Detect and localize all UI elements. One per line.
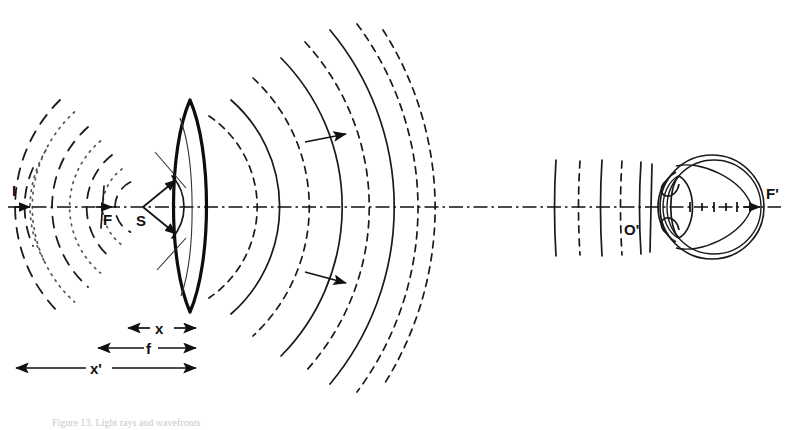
- front-focal-point-label: F: [103, 211, 112, 228]
- source-ray-lower: [143, 207, 176, 234]
- propagation-arrow-group: [305, 134, 346, 283]
- plane-wavefront: [579, 161, 581, 255]
- converging-lens: [155, 100, 207, 312]
- plane-wavefront-group: [555, 160, 642, 256]
- dimension-group: x f x': [16, 320, 196, 377]
- principal-plane-line: [650, 164, 652, 252]
- plane-wavefront: [621, 161, 623, 255]
- figure-caption: Figure 13. Light rays and wavefronts: [52, 417, 200, 428]
- source-point-label: S: [136, 212, 146, 229]
- plane-wavefront: [640, 162, 642, 254]
- lens-edge-hint-upper: [155, 152, 186, 188]
- dimension-f: f: [98, 340, 196, 357]
- dimension-x-prime: x': [16, 360, 196, 377]
- dimension-x: x: [128, 320, 196, 337]
- propagation-arrow: [305, 134, 346, 142]
- lens-outline: [174, 100, 207, 312]
- incident-ray-label: I: [12, 182, 16, 199]
- eye-principal-point: O': [624, 164, 652, 252]
- eye-focal-point-label: F': [766, 185, 779, 202]
- plane-wavefront: [555, 160, 557, 256]
- source-ray-upper: [143, 180, 176, 207]
- dimension-xprime-label: x': [90, 360, 102, 377]
- optics-figure: I F S: [0, 0, 789, 430]
- diagram-canvas: I F S: [0, 0, 789, 430]
- propagation-arrow: [305, 272, 346, 283]
- dimension-f-label: f: [146, 340, 152, 357]
- eye-principal-point-label: O': [624, 221, 639, 238]
- converging-wavefront-group: [209, 24, 435, 392]
- dimension-x-label: x: [155, 320, 164, 337]
- plane-wavefront: [601, 160, 603, 256]
- lens-edge-hint-lower: [157, 238, 186, 270]
